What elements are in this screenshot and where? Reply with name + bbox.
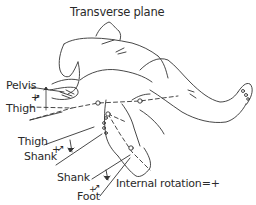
foot-joint-marker <box>129 146 133 150</box>
head-outline <box>96 22 121 40</box>
pelvis-label: Pelvis <box>6 80 36 92</box>
knee-joint-marker <box>138 99 142 103</box>
arrow-icon-pelvis-thigh: ↗ <box>33 92 41 102</box>
foot-label: Foot <box>77 191 100 203</box>
thigh-label-1: Thigh <box>6 103 36 115</box>
title-label: Transverse plane <box>70 6 164 18</box>
arrow-icon-thigh-shank: ↗ <box>57 143 65 153</box>
thigh-label-2: Thigh <box>18 136 48 148</box>
shank-label-2: Shank <box>57 172 90 184</box>
hip-joint-marker <box>96 101 100 105</box>
shank-axis <box>108 114 150 170</box>
foot-axis <box>108 114 126 122</box>
shank-label-1: Shank <box>24 151 57 163</box>
internal-rotation-legend: Internal rotation=+ <box>116 178 220 190</box>
arm-left-outline <box>59 44 78 77</box>
ankle-joint-marker <box>106 112 110 116</box>
